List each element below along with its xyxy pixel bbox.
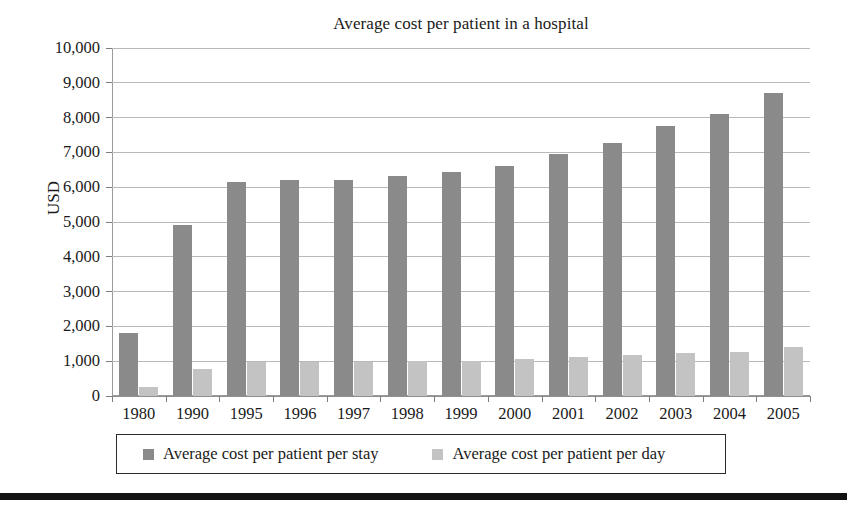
y-axis-tick-label: 6,000	[14, 179, 100, 196]
bar-2005-day	[784, 347, 803, 396]
gridline	[112, 187, 810, 188]
legend-entry-stay[interactable]: Average cost per patient per stay	[143, 444, 378, 464]
y-axis-tick-mark	[106, 326, 112, 327]
y-axis-tick-mark	[106, 187, 112, 188]
bar-2005-stay	[764, 93, 783, 396]
gridline	[112, 82, 810, 83]
y-axis-tick-mark	[106, 48, 112, 49]
bar-1997-stay	[334, 180, 353, 396]
bar-2004-day	[730, 352, 749, 396]
x-axis-tick-label: 1995	[219, 406, 273, 423]
bar-2002-day	[623, 355, 642, 396]
y-axis-tick-label: 5,000	[14, 214, 100, 231]
x-axis-tick-mark	[649, 396, 650, 402]
x-axis-tick-label: 1996	[273, 406, 327, 423]
x-axis-tick-mark	[166, 396, 167, 402]
y-axis-tick-label: 9,000	[14, 75, 100, 92]
chart-title: Average cost per patient in a hospital	[112, 14, 810, 34]
bar-1999-day	[462, 361, 481, 396]
x-axis-tick-label: 2002	[595, 406, 649, 423]
y-axis-tick-mark	[106, 256, 112, 257]
y-axis-tick-label: 1,000	[14, 353, 100, 370]
y-axis-tick-mark	[106, 117, 112, 118]
chart-legend: Average cost per patient per stay Averag…	[116, 434, 726, 474]
bar-1998-stay	[388, 176, 407, 396]
x-axis-tick-mark	[703, 396, 704, 402]
x-axis-tick-label: 2005	[756, 406, 810, 423]
x-axis-tick-mark	[434, 396, 435, 402]
x-axis-tick-mark	[327, 396, 328, 402]
y-axis-tick-mark	[106, 222, 112, 223]
gridline	[112, 256, 810, 257]
x-axis-tick-label: 1997	[327, 406, 381, 423]
x-axis-tick-label: 2001	[542, 406, 596, 423]
bar-2001-day	[569, 357, 588, 396]
x-axis-tick-label: 1980	[112, 406, 166, 423]
y-axis-tick-label: 7,000	[14, 144, 100, 161]
bar-1999-stay	[442, 172, 461, 396]
y-axis-tick-mark	[106, 361, 112, 362]
bar-1980-stay	[119, 333, 138, 396]
bar-2003-day	[676, 353, 695, 396]
bar-1990-day	[193, 369, 212, 396]
x-axis-tick-mark	[112, 396, 113, 402]
bar-1990-stay	[173, 225, 192, 396]
bottom-rule	[0, 493, 847, 500]
bar-1998-day	[408, 361, 427, 396]
x-axis-tick-mark	[542, 396, 543, 402]
x-axis-tick-mark	[273, 396, 274, 402]
bar-2004-stay	[710, 114, 729, 396]
bar-2000-day	[515, 359, 534, 396]
x-axis-tick-label: 1999	[434, 406, 488, 423]
bar-2003-stay	[656, 126, 675, 396]
bar-2000-stay	[495, 166, 514, 396]
y-axis-tick-mark	[106, 152, 112, 153]
legend-label-day: Average cost per patient per day	[452, 444, 665, 464]
chart-figure: Average cost per patient in a hospital U…	[0, 0, 847, 514]
y-axis-tick-mark	[106, 291, 112, 292]
x-axis-tick-mark	[595, 396, 596, 402]
y-axis-tick-label: 2,000	[14, 318, 100, 335]
legend-entry-day[interactable]: Average cost per patient per day	[432, 444, 665, 464]
bar-2002-stay	[603, 143, 622, 396]
bar-1995-day	[247, 362, 266, 396]
x-axis-tick-label: 2003	[649, 406, 703, 423]
bar-1980-day	[139, 387, 158, 396]
y-axis-tick-label: 10,000	[14, 40, 100, 57]
plot-area: 01,0002,0003,0004,0005,0006,0007,0008,00…	[112, 48, 810, 396]
y-axis-tick-label: 4,000	[14, 249, 100, 266]
y-axis-tick-label: 8,000	[14, 110, 100, 127]
bar-1997-day	[354, 362, 373, 396]
x-axis-tick-label: 1998	[380, 406, 434, 423]
y-axis-tick-label: 0	[14, 388, 100, 405]
x-axis-tick-mark	[756, 396, 757, 402]
gridline	[112, 48, 810, 49]
x-axis-tick-label: 2000	[488, 406, 542, 423]
legend-label-stay: Average cost per patient per stay	[163, 444, 378, 464]
bar-1995-stay	[227, 182, 246, 396]
gridline	[112, 222, 810, 223]
x-axis-tick-mark	[810, 396, 811, 402]
bar-2001-stay	[549, 154, 568, 396]
x-axis-tick-label: 2004	[703, 406, 757, 423]
bar-1996-day	[300, 362, 319, 396]
legend-swatch-day-icon	[432, 449, 443, 460]
x-axis-tick-label: 1990	[166, 406, 220, 423]
x-axis-tick-mark	[219, 396, 220, 402]
y-axis-tick-label: 3,000	[14, 284, 100, 301]
y-axis-tick-mark	[106, 82, 112, 83]
legend-swatch-stay-icon	[143, 449, 154, 460]
gridline	[112, 152, 810, 153]
gridline	[112, 326, 810, 327]
x-axis-tick-mark	[380, 396, 381, 402]
gridline	[112, 117, 810, 118]
gridline	[112, 291, 810, 292]
x-axis-tick-mark	[488, 396, 489, 402]
bar-1996-stay	[280, 180, 299, 396]
